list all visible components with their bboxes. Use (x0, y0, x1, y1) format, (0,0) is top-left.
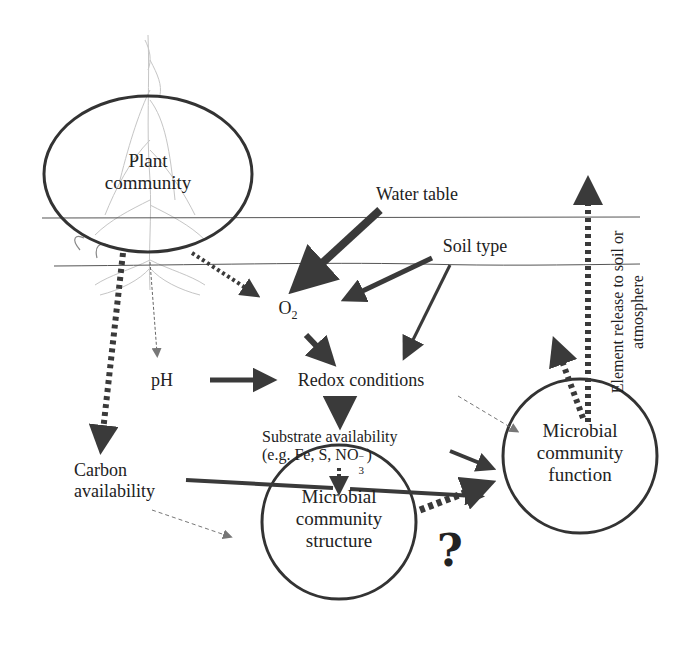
arrow-redox-to-function (458, 396, 515, 430)
microbial-function-label: Microbial community function (510, 420, 650, 486)
arrow-carbon-to-structure (152, 510, 228, 536)
element-release-label: Element release to soil or atmosphere (608, 222, 648, 402)
arrow-plant-to-o2 (192, 253, 252, 292)
arrow-function-short-release (558, 350, 583, 418)
soil-surface-line (42, 217, 640, 218)
arrow-soiltype-to-redox (408, 265, 450, 350)
root-hook-1 (75, 237, 84, 251)
arrow-substrate-to-function (450, 451, 487, 466)
substrate-line2: (e.g. Fe, S, NO−3) (262, 446, 422, 464)
soil-type-label: Soil type (430, 236, 520, 257)
substrate-label: Substrate availability (e.g. Fe, S, NO−3… (262, 428, 422, 465)
arrow-plant-to-ph (150, 262, 157, 353)
plant-community-label: Plant community (88, 150, 208, 194)
arrow-plant-to-carbon (102, 253, 123, 440)
o2-subscript: 2 (292, 308, 298, 322)
diagram-canvas (0, 0, 697, 665)
o2-label: O2 (268, 298, 308, 322)
o2-base: O (279, 298, 292, 318)
redox-label: Redox conditions (286, 370, 436, 391)
water-table-label: Water table (362, 184, 472, 205)
carbon-availability-label: Carbon availability (74, 460, 184, 501)
arrow-o2-to-redox (306, 335, 326, 356)
ph-label: pH (144, 370, 180, 391)
question-mark: ? (430, 526, 470, 577)
microbial-structure-label: Microbial community structure (269, 486, 409, 552)
plant-community-line1: Plant (88, 150, 208, 172)
arrow-structure-to-function (420, 487, 480, 510)
arrow-watertable-to-o2 (306, 210, 380, 278)
plant-community-line2: community (88, 172, 208, 194)
substrate-line1: Substrate availability (262, 428, 422, 446)
